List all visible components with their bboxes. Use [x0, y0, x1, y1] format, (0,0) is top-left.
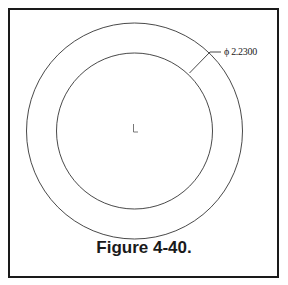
- figure-caption: Figure 4-40.: [0, 238, 288, 258]
- center-mark-icon: [134, 124, 139, 132]
- dimension-leader: [190, 52, 222, 73]
- inner-circle: [57, 53, 213, 209]
- outer-circle: [27, 23, 243, 239]
- diameter-dimension-label: ϕ 2.2300: [224, 46, 257, 57]
